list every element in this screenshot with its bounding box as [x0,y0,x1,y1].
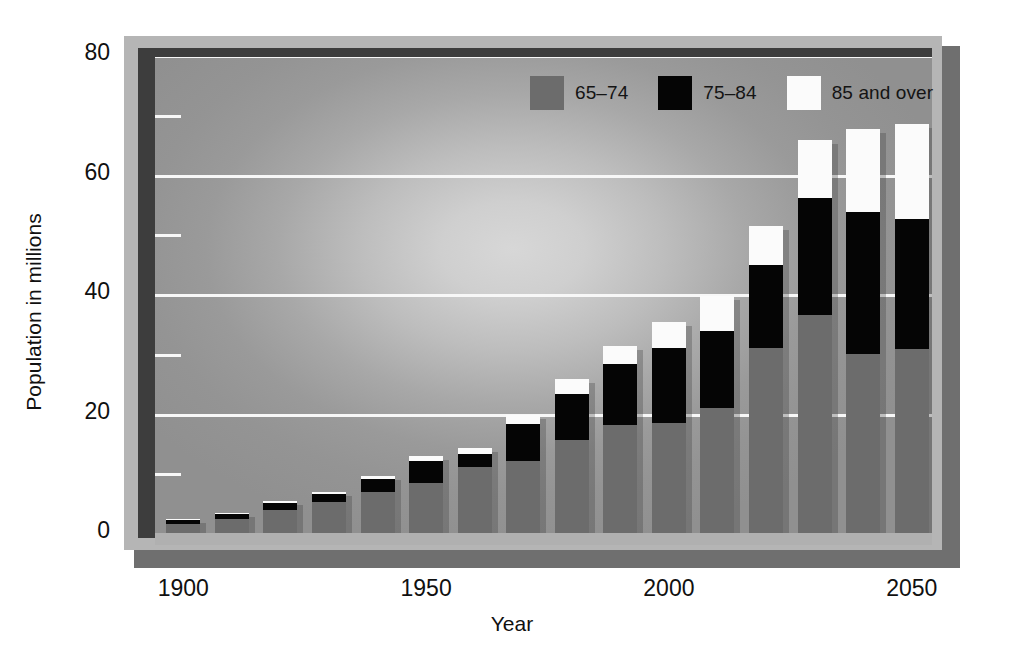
bar-segment-65-74 [555,440,589,533]
bar-2000[interactable] [652,322,686,533]
bar-1930[interactable] [312,492,346,533]
legend-item-1[interactable]: 75–84 [658,76,786,110]
bar-segment-85-over [895,124,929,219]
bar-1950[interactable] [409,456,443,533]
x-tick-label-2050: 2050 [886,575,937,602]
bar-segment-75-84 [166,520,200,524]
y-axis-title: Population in millions [22,182,46,442]
x-tick-label-2000: 2000 [643,575,694,602]
bar-segment-65-74 [798,315,832,533]
bar-1960[interactable] [458,448,492,533]
bar-segment-85-over [361,476,395,479]
y-tick-label-80: 80 [28,39,110,66]
legend-swatch-icon [530,76,564,110]
bar-segment-85-over [700,296,734,331]
plot-area [155,57,932,538]
x-axis-tick-labels: 1900195020002050 [0,575,1024,605]
bar-segment-75-84 [263,503,297,510]
legend-swatch-icon [658,76,692,110]
x-tick-label-1900: 1900 [158,575,209,602]
bar-segment-65-74 [506,461,540,533]
bar-segment-85-over [749,226,783,265]
legend-label: 65–74 [575,82,628,104]
bar-2040[interactable] [846,129,880,533]
bar-segment-75-84 [312,494,346,502]
bar-segment-65-74 [700,408,734,533]
bar-segment-75-84 [555,394,589,440]
bar-segment-85-over [166,519,200,520]
bar-segment-85-over [846,129,880,211]
bar-segment-85-over [409,456,443,461]
legend-item-0[interactable]: 65–74 [530,76,658,110]
bar-segment-85-over [603,346,637,364]
bar-1900[interactable] [166,519,200,533]
bar-1990[interactable] [603,346,637,533]
bar-2030[interactable] [798,140,832,533]
bar-segment-75-84 [603,364,637,426]
bar-segment-65-74 [215,519,249,533]
bar-1910[interactable] [215,513,249,533]
figure-shadow-bottom [134,550,960,568]
bar-segment-75-84 [749,265,783,347]
legend-item-2[interactable]: 85 and over [787,76,933,110]
figure-shadow-right [942,46,960,568]
bar-1980[interactable] [555,379,589,533]
bar-segment-65-74 [652,423,686,533]
bar-segment-65-74 [166,524,200,533]
bar-1920[interactable] [263,501,297,533]
bar-segment-65-74 [846,354,880,533]
bar-segment-85-over [215,513,249,514]
bar-segment-65-74 [361,492,395,533]
baseline-plinth [155,533,932,545]
y-tick-label-0: 0 [28,517,110,544]
bar-segment-75-84 [652,348,686,423]
legend-label: 85 and over [832,82,933,104]
bar-1970[interactable] [506,415,540,533]
bar-segment-85-over [652,322,686,348]
bar-2050[interactable] [895,124,929,533]
bar-segment-65-74 [895,349,929,533]
bar-segment-85-over [798,140,832,199]
legend-swatch-icon [787,76,821,110]
bar-segment-75-84 [409,461,443,483]
bar-segment-65-74 [409,483,443,533]
bar-segment-75-84 [458,454,492,468]
bar-segment-65-74 [312,502,346,533]
bar-2010[interactable] [700,296,734,533]
bar-segment-65-74 [458,467,492,533]
bar-segment-85-over [263,501,297,503]
bar-segment-65-74 [749,348,783,533]
bar-segment-75-84 [361,479,395,492]
bar-segment-75-84 [700,331,734,407]
x-axis-title: Year [0,612,1024,636]
x-tick-label-1950: 1950 [401,575,452,602]
bar-series-container [155,57,932,538]
bar-segment-65-74 [263,510,297,533]
chart-figure: 65–7475–8485 and over 020406080 19001950… [0,0,1024,662]
legend-label: 75–84 [703,82,756,104]
bar-segment-75-84 [846,212,880,354]
bar-segment-75-84 [506,424,540,461]
bar-segment-85-over [506,415,540,424]
bar-2020[interactable] [749,226,783,533]
bar-segment-65-74 [603,425,637,533]
bar-segment-85-over [555,379,589,393]
chart-legend: 65–7475–8485 and over [530,76,933,110]
bar-segment-85-over [312,492,346,494]
bar-segment-75-84 [798,198,832,315]
bar-segment-75-84 [895,219,929,349]
bar-segment-85-over [458,448,492,453]
bar-segment-75-84 [215,514,249,519]
bar-1940[interactable] [361,476,395,533]
